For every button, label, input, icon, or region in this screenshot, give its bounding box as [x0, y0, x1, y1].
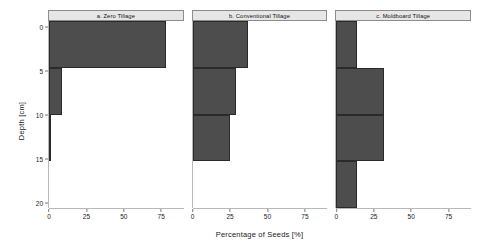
x-tick-b-25: 25: [226, 209, 233, 220]
x-tick-b-50: 50: [264, 209, 271, 220]
panel-b-plot-area: 0255075: [192, 21, 328, 208]
x-tick-mark: [86, 209, 87, 212]
y-tick-0: 0: [39, 24, 48, 31]
panel-a-plot-area: 0255075: [48, 21, 184, 208]
x-tick-label: 0: [47, 213, 51, 220]
bar-c-depth-0-5: [336, 21, 357, 68]
x-tick-c-25: 25: [370, 209, 377, 220]
panel-b-strip-title: b. Conventional Tillage: [192, 10, 328, 21]
x-tick-label: 50: [120, 213, 127, 220]
panel-row: a. Zero Tillage 0255075 b. Conventional …: [48, 10, 471, 208]
y-axis: 0 5 10 15 20: [22, 27, 48, 203]
panel-c-bars: [336, 21, 471, 208]
x-tick-label: 50: [264, 213, 271, 220]
y-tick-5: 5: [39, 68, 48, 75]
y-tick-label-5: 5: [39, 68, 43, 75]
x-tick-c-0: 0: [335, 209, 339, 220]
x-tick-label: 75: [301, 213, 308, 220]
x-tick-label: 75: [445, 213, 452, 220]
bar-a-depth-10-15: [49, 115, 51, 162]
x-tick-a-50: 50: [120, 209, 127, 220]
bar-a-depth-5-10: [49, 68, 62, 115]
panel-a-zero-tillage: a. Zero Tillage 0255075: [48, 10, 184, 208]
x-tick-mark: [411, 209, 412, 212]
x-axis-label: Percentage of Seeds [%]: [48, 230, 471, 239]
x-tick-a-75: 75: [158, 209, 165, 220]
panel-a-x-axis: 0255075: [49, 208, 184, 223]
x-tick-mark: [49, 209, 50, 212]
panel-b-bars: [193, 21, 328, 208]
y-tick-20: 20: [36, 200, 48, 207]
x-tick-label: 0: [335, 213, 339, 220]
x-tick-mark: [267, 209, 268, 212]
x-tick-mark: [304, 209, 305, 212]
x-tick-mark: [336, 209, 337, 212]
bar-b-depth-10-15: [193, 115, 230, 162]
x-tick-label: 75: [158, 213, 165, 220]
y-tick-label-15: 15: [36, 156, 43, 163]
panel-c-moldboard-tillage: c. Moldboard Tillage 0255075: [335, 10, 471, 208]
x-tick-label: 0: [191, 213, 195, 220]
x-tick-mark: [230, 209, 231, 212]
x-tick-mark: [161, 209, 162, 212]
x-tick-c-50: 50: [408, 209, 415, 220]
bar-a-depth-0-5: [49, 21, 166, 68]
x-tick-a-0: 0: [47, 209, 51, 220]
bar-b-depth-5-10: [193, 68, 236, 115]
x-tick-label: 25: [226, 213, 233, 220]
x-tick-mark: [448, 209, 449, 212]
panel-a-strip-title: a. Zero Tillage: [48, 10, 184, 21]
panel-b-conventional-tillage: b. Conventional Tillage 0255075: [192, 10, 328, 208]
panel-a-bars: [49, 21, 184, 208]
y-tick-10: 10: [36, 112, 48, 119]
x-tick-mark: [123, 209, 124, 212]
x-tick-mark: [373, 209, 374, 212]
x-tick-a-25: 25: [83, 209, 90, 220]
panel-c-x-axis: 0255075: [336, 208, 471, 223]
x-tick-b-75: 75: [301, 209, 308, 220]
y-tick-15: 15: [36, 156, 48, 163]
x-tick-b-0: 0: [191, 209, 195, 220]
y-tick-label-0: 0: [39, 24, 43, 31]
y-tick-label-10: 10: [36, 112, 43, 119]
y-tick-label-20: 20: [36, 200, 43, 207]
x-tick-label: 50: [408, 213, 415, 220]
panel-b-x-axis: 0255075: [193, 208, 328, 223]
x-tick-label: 25: [83, 213, 90, 220]
figure: Depth [cm] 0 5 10 15 20 a. Zero Tillage: [0, 0, 477, 242]
bar-c-depth-15-20: [336, 161, 357, 208]
bar-c-depth-5-10: [336, 68, 384, 115]
bar-c-depth-10-15: [336, 115, 384, 162]
panel-c-plot-area: 0255075: [335, 21, 471, 208]
panel-c-strip-title: c. Moldboard Tillage: [335, 10, 471, 21]
x-tick-c-75: 75: [445, 209, 452, 220]
bar-b-depth-0-5: [193, 21, 248, 68]
x-tick-mark: [192, 209, 193, 212]
x-tick-label: 25: [370, 213, 377, 220]
